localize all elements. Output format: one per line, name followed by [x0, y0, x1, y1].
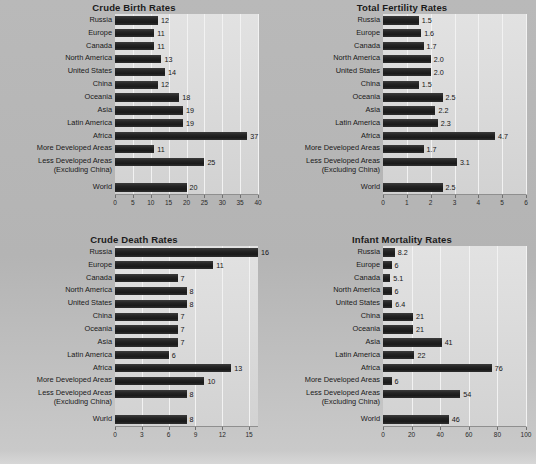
x-axis-tick [383, 427, 384, 430]
category-label: Canada [0, 274, 112, 283]
bar [115, 300, 187, 308]
bar-value-label: 7 [181, 274, 185, 283]
x-axis-tick [478, 195, 479, 198]
x-axis-tick [169, 427, 170, 430]
x-axis-tick-label: 60 [465, 431, 472, 438]
grid-line [249, 246, 250, 426]
category-label: Oceania [268, 93, 380, 102]
category-label: Europe [0, 261, 112, 270]
chart-title: Crude Birth Rates [0, 2, 268, 13]
category-label: Russia [268, 248, 380, 257]
bar [115, 93, 179, 101]
bar [383, 183, 443, 191]
grid-line [469, 246, 470, 426]
bar-value-label: 18 [182, 93, 190, 102]
bar [115, 377, 204, 385]
bar-value-label: 46 [452, 415, 460, 424]
grid-line [407, 14, 408, 194]
bar [115, 29, 154, 37]
x-axis-tick-label: 30 [219, 199, 226, 206]
x-axis-tick [142, 427, 143, 430]
bar [115, 261, 213, 269]
category-label: North America [268, 54, 380, 63]
bar [383, 274, 390, 282]
category-label: Latin America [268, 351, 380, 360]
category-label: Africa [0, 364, 112, 373]
bar-value-label: 8.2 [398, 248, 408, 257]
bar-value-label: 7 [181, 312, 185, 321]
chart-title: Total Fertility Rates [268, 2, 536, 13]
x-axis-tick [455, 195, 456, 198]
x-axis-tick-label: 2 [429, 199, 433, 206]
x-axis-tick [115, 195, 116, 198]
bar-value-label: 20 [190, 183, 198, 192]
bar [383, 106, 435, 114]
grid-line [526, 246, 527, 426]
grid-line [440, 246, 441, 426]
bar [383, 119, 438, 127]
bar [115, 158, 204, 166]
x-axis-tick [115, 427, 116, 430]
bar [383, 145, 424, 153]
category-label: Wurld [0, 415, 112, 424]
grid-line [455, 14, 456, 194]
bar [383, 300, 392, 308]
category-label: More Developed Areas [0, 376, 112, 385]
category-label: Asia [0, 338, 112, 347]
category-label: Canada [268, 274, 380, 283]
category-label: Russia [268, 16, 380, 25]
grid-line [222, 14, 223, 194]
x-axis-tick [187, 195, 188, 198]
x-axis-tick-label: 3 [453, 199, 457, 206]
bar [115, 55, 161, 63]
bar [115, 16, 158, 24]
grid-line [497, 246, 498, 426]
category-label: Less Developed Areas(Excluding China) [0, 389, 112, 406]
category-label: Oceania [0, 325, 112, 334]
x-axis-tick-label: 3 [140, 431, 144, 438]
x-axis-tick [240, 195, 241, 198]
x-axis-tick [169, 195, 170, 198]
bar-value-label: 6 [172, 351, 176, 360]
x-axis-line [383, 426, 526, 427]
bar [115, 132, 247, 140]
bar-value-label: 11 [157, 145, 164, 154]
bar-value-label: 4.7 [498, 132, 508, 141]
grid-line [169, 246, 170, 426]
bar [383, 248, 395, 256]
category-label: Canada [0, 42, 112, 51]
bar-value-label: 8 [190, 300, 194, 309]
bar [115, 274, 178, 282]
category-label: More Developed Areas [0, 144, 112, 153]
bar [115, 287, 187, 295]
bar-value-label: 21 [416, 325, 424, 334]
category-label: Russia [0, 16, 112, 25]
bar [383, 93, 443, 101]
x-axis-tick-label: 100 [521, 431, 532, 438]
bar [383, 29, 421, 37]
chart-title: Infant Mortality Rates [268, 234, 536, 245]
bar-value-label: 2.5 [446, 93, 456, 102]
bar [383, 325, 413, 333]
bar [115, 119, 183, 127]
category-label: Canada [268, 42, 380, 51]
bar [383, 313, 413, 321]
bar-value-label: 2.3 [441, 119, 451, 128]
bar [115, 81, 158, 89]
category-label: North America [0, 54, 112, 63]
category-label: Africa [0, 132, 112, 141]
category-label: More Developed Areas [268, 376, 380, 385]
x-axis-tick-label: 20 [408, 431, 415, 438]
bar-value-label: 1.7 [427, 42, 437, 51]
bar [383, 261, 392, 269]
x-axis-tick-label: 12 [219, 431, 226, 438]
category-label: World [0, 183, 112, 192]
chart-total-fertility-rates: Total Fertility Rates01234561.5Russia1.6… [268, 0, 536, 232]
x-axis-tick [222, 427, 223, 430]
bar-value-label: 2.5 [446, 183, 456, 192]
category-label: United States [0, 67, 112, 76]
grid-line [195, 246, 196, 426]
bar-value-label: 14 [168, 68, 176, 77]
bar [115, 68, 165, 76]
x-axis-tick [258, 195, 259, 198]
